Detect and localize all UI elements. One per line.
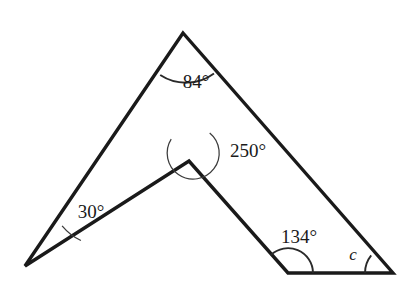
polygon-outline [25,33,393,273]
angle-arc-250-reflex [167,133,219,179]
angle-label-c: c [349,245,357,264]
angle-label-84: 84° [183,71,210,92]
angle-label-30: 30° [78,201,105,222]
angle-label-250: 250° [230,140,266,161]
angle-arc-c [365,255,371,273]
angle-diagram: 84° 250° 30° 134° c [0,0,409,296]
angle-label-134: 134° [281,226,317,247]
